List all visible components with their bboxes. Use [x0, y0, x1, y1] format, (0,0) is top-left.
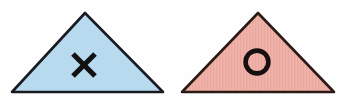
- two-triangles-figure: [0, 0, 356, 111]
- figure-canvas: Blue triangle with X Red triangle with O…: [0, 0, 356, 111]
